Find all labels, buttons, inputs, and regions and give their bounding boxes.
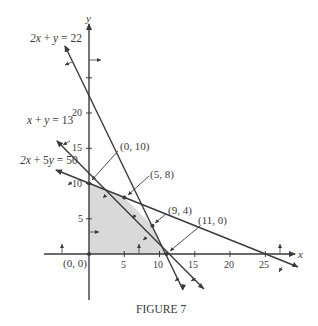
x-tick-10: 10 [153, 259, 163, 270]
equation-label-3: 2x + 5y = 50 [20, 154, 78, 167]
y-axis-label: y [85, 12, 91, 24]
vertex-label-9-4: (9, 4) [168, 204, 192, 217]
x-tick-15: 15 [188, 259, 198, 270]
vertex-label-0-10: (0, 10) [120, 140, 150, 153]
y-tick-20: 20 [72, 107, 82, 118]
equation-label-1: 2x + y = 22 [30, 32, 82, 45]
figure-caption: FIGURE 7 [136, 303, 186, 315]
equation-label-2: x + y = 13 [26, 114, 73, 127]
vertex-label-5-8: (5, 8) [150, 168, 174, 181]
vertex-label-0-0: (0, 0) [63, 257, 87, 270]
x-axis-label: x [297, 248, 303, 260]
y-tick-5: 5 [78, 213, 83, 224]
vertex-label-11-0: (11, 0) [198, 214, 227, 227]
feasible-region [89, 184, 167, 255]
figure-canvas: x y 5 10 15 20 25 5 10 15 20 [0, 0, 318, 326]
x-tick-25: 25 [259, 259, 269, 270]
x-tick-5: 5 [121, 259, 126, 270]
x-tick-20: 20 [224, 259, 234, 270]
y-tick-15: 15 [72, 142, 82, 153]
